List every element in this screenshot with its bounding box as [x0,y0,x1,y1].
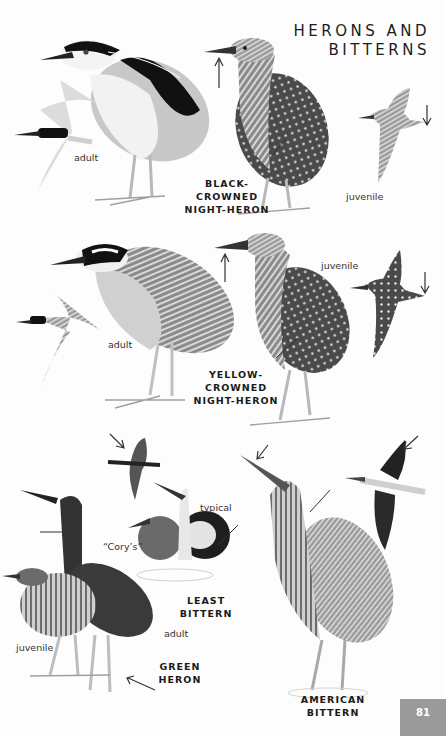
age-label-juvenile: juvenile [321,260,358,271]
arrow-icon [40,528,69,536]
page-number: 81 [400,699,446,736]
arrow-icon [257,445,268,459]
least-bittern-flight-illustration [108,438,160,500]
yellow-crowned-juvenile-flight-illustration [350,250,425,358]
species-label-green-heron: GREEN HERON [140,660,220,686]
morph-label-typical: typical [200,502,232,513]
black-crowned-juvenile-flight-illustration [358,88,425,182]
arrow-icon [110,434,124,448]
age-label-adult: adult [164,628,188,639]
arrow-icon [404,436,418,449]
morph-label-corys: “Cory’s” [103,541,142,552]
age-label-juvenile: juvenile [346,191,383,202]
american-bittern-illustration [240,455,411,698]
least-bittern-illustration [128,482,230,581]
arrow-icon [421,272,429,293]
arrow-icon [221,254,229,282]
page-title: HERONS AND BITTERNS [293,22,430,60]
species-label-black-crowned-night-heron: BLACK-CROWNED NIGHT-HERON [174,177,280,216]
arrow-icon [215,58,223,88]
species-label-yellow-crowned-night-heron: YELLOW-CROWNED NIGHT-HERON [180,368,292,407]
field-guide-page: HERONS AND BITTERNS BLACK-CROWNED NIGHT-… [0,0,446,736]
species-label-least-bittern: LEAST BITTERN [176,594,236,620]
age-label-juvenile: juvenile [16,642,53,653]
black-crowned-adult-flight-illustration [14,80,95,190]
species-label-american-bittern: AMERICAN BITTERN [298,693,368,719]
yellow-crowned-adult-flight-illustration [16,290,100,388]
age-label-adult: adult [74,152,98,163]
pointer-line [310,490,330,512]
age-label-adult: adult [108,339,132,350]
